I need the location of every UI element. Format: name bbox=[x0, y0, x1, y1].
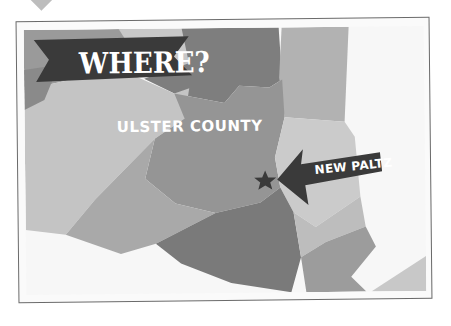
county-label: ULSTER COUNTY bbox=[117, 117, 263, 137]
ulster-county-map: WHERE? ULSTER COUNTY NEW PALTZ bbox=[24, 26, 427, 295]
map-card: WHERE? ULSTER COUNTY NEW PALTZ bbox=[16, 17, 433, 303]
banner-title: WHERE? bbox=[79, 45, 210, 80]
map-region bbox=[371, 256, 426, 292]
page-corner-shape bbox=[27, 0, 52, 11]
map-region bbox=[279, 27, 350, 123]
